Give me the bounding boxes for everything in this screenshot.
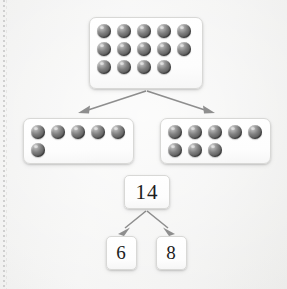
counter <box>177 42 191 56</box>
counter <box>71 125 85 139</box>
left-part-number-card: 6 <box>106 236 137 270</box>
counter <box>51 125 65 139</box>
arrow-total-to-right-part <box>147 91 215 114</box>
counter <box>188 125 202 139</box>
left-part-counters-grid <box>31 125 131 157</box>
counter <box>137 24 151 38</box>
counter <box>157 42 171 56</box>
counter <box>177 24 191 38</box>
counter <box>97 42 111 56</box>
counter <box>31 143 45 157</box>
right-part-counters-grid <box>168 125 268 157</box>
right-part-counters-box <box>160 118 271 164</box>
right-part-number-card: 8 <box>156 236 187 270</box>
total-counters-box <box>89 17 203 89</box>
worksheet-canvas: 14 6 8 <box>0 0 287 289</box>
left-part-counters-box <box>23 118 134 164</box>
counter <box>111 125 125 139</box>
counter <box>97 60 111 74</box>
margin-rule-line <box>3 0 5 289</box>
counter <box>137 42 151 56</box>
counter <box>117 42 131 56</box>
counter <box>208 125 222 139</box>
counter <box>91 125 105 139</box>
counter <box>117 60 131 74</box>
counter <box>157 24 171 38</box>
counter <box>248 125 262 139</box>
arrow-total-to-part-left <box>118 211 146 236</box>
counter <box>228 125 242 139</box>
counter <box>168 125 182 139</box>
total-number-card: 14 <box>124 175 170 209</box>
counter <box>208 143 222 157</box>
counter <box>168 143 182 157</box>
counter <box>97 24 111 38</box>
arrow-total-to-part-right <box>147 211 175 236</box>
counter <box>157 60 171 74</box>
margin-rule-line-secondary <box>6 0 7 289</box>
counter <box>188 143 202 157</box>
total-counters-grid <box>97 24 197 74</box>
arrow-total-to-left-part <box>78 91 146 114</box>
counter <box>31 125 45 139</box>
counter <box>137 60 151 74</box>
counter <box>117 24 131 38</box>
